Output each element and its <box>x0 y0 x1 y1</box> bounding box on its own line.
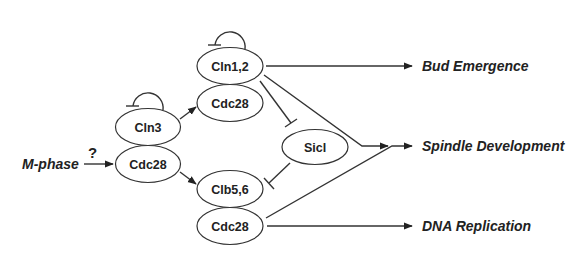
svg-text:Cln3: Cln3 <box>134 121 161 135</box>
svg-text:Clb5,6: Clb5,6 <box>211 183 249 197</box>
output-bud-emergence: Bud Emergence <box>422 58 529 74</box>
node-cdc28-bottom: Cdc28 <box>197 208 263 245</box>
sicl-inhibits-clb56 <box>264 163 290 189</box>
cell-cycle-diagram: Cln1,2 Cdc28 Cln3 Cdc28 Sicl Clb5,6 Cdc2… <box>0 0 588 259</box>
cdc28-to-clb56-arrow <box>180 172 196 184</box>
output-dna-replication: DNA Replication <box>422 218 531 234</box>
svg-text:Cdc28: Cdc28 <box>211 220 249 234</box>
mphase-label: M-phase <box>22 156 79 172</box>
cln3-to-cdc28-arrow <box>180 107 196 119</box>
uncertain-question-mark: ? <box>88 144 97 161</box>
node-clb56: Clb5,6 <box>197 171 263 208</box>
node-sicl: Sicl <box>282 130 348 165</box>
svg-text:Cdc28: Cdc28 <box>211 97 249 111</box>
node-cln3: Cln3 <box>116 109 181 146</box>
cln12-inhibits-sicl <box>260 81 297 127</box>
svg-text:Cdc28: Cdc28 <box>129 158 167 172</box>
svg-text:Cln1,2: Cln1,2 <box>211 60 249 74</box>
cln12-self-inhibition-loop <box>208 32 245 49</box>
cln3-self-inhibition-loop <box>126 93 163 110</box>
node-cdc28-top: Cdc28 <box>197 85 263 122</box>
node-cln12: Cln1,2 <box>197 48 263 85</box>
node-cdc28-mid: Cdc28 <box>116 146 181 183</box>
svg-text:Sicl: Sicl <box>304 141 326 155</box>
output-spindle-development: Spindle Development <box>422 138 566 154</box>
